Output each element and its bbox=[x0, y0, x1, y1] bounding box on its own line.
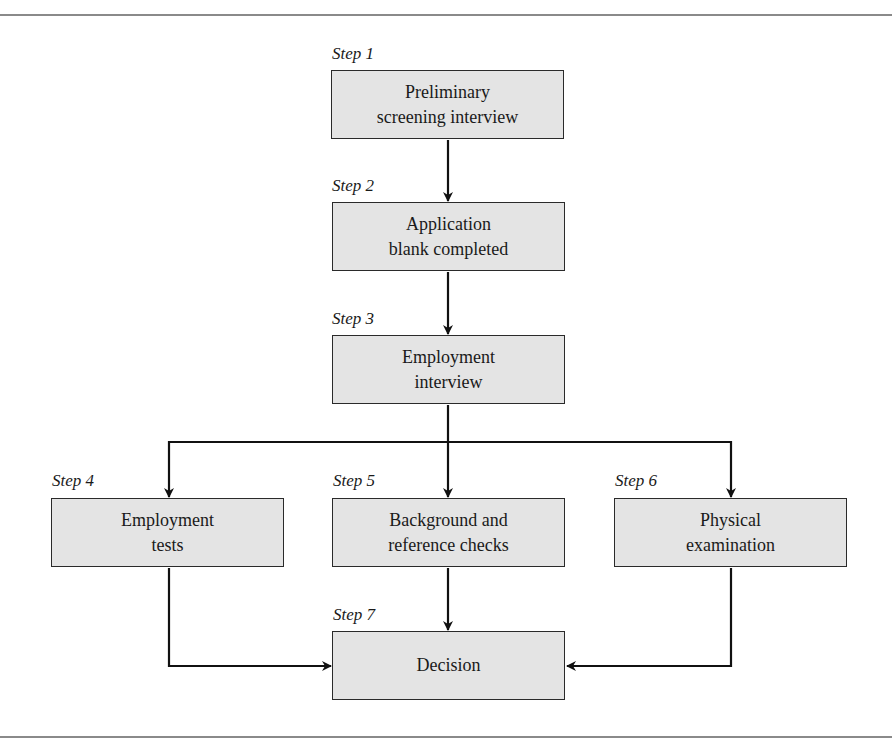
step-3-label: Step 3 bbox=[332, 309, 374, 329]
step-3-text: Employment interview bbox=[402, 345, 495, 395]
step-5-label: Step 5 bbox=[333, 471, 375, 491]
step-1-label: Step 1 bbox=[332, 44, 374, 64]
step-4-label: Step 4 bbox=[52, 471, 94, 491]
step-5-text: Background and reference checks bbox=[388, 508, 508, 558]
arrow-step4-to-step7 bbox=[169, 568, 331, 666]
step-1-text: Preliminary screening interview bbox=[377, 80, 518, 130]
step-7-decision-box: Decision bbox=[332, 631, 565, 700]
step-6-box: Physical examination bbox=[614, 498, 847, 567]
step-3-box: Employment interview bbox=[332, 335, 565, 404]
step-6-label: Step 6 bbox=[615, 471, 657, 491]
step-7-text: Decision bbox=[417, 653, 481, 678]
step-5-box: Background and reference checks bbox=[332, 498, 565, 567]
step-2-box: Application blank completed bbox=[332, 202, 565, 271]
step-6-text: Physical examination bbox=[686, 508, 775, 558]
arrow-step6-to-step7 bbox=[567, 568, 731, 666]
step-2-label: Step 2 bbox=[332, 176, 374, 196]
step-4-text: Employment tests bbox=[121, 508, 214, 558]
step-7-label: Step 7 bbox=[333, 605, 375, 625]
step-2-text: Application blank completed bbox=[389, 212, 508, 262]
step-1-box: Preliminary screening interview bbox=[331, 70, 564, 139]
step-4-box: Employment tests bbox=[51, 498, 284, 567]
